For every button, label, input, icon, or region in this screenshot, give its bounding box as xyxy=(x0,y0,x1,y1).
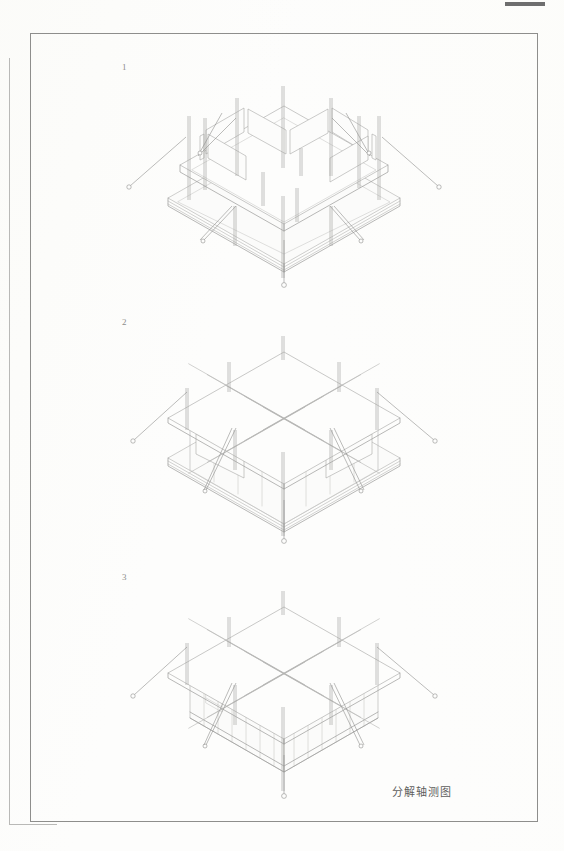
sheet-title: 分解轴测图 xyxy=(392,783,452,799)
drawing-sheet: 1 2 3 .ln { stroke:#9a9a98; stroke-width… xyxy=(0,0,564,851)
figure-3-axonometric xyxy=(131,591,437,798)
figure-1-axonometric xyxy=(127,86,441,287)
axonometric-drawings: .ln { stroke:#9a9a98; stroke-width:0.7; … xyxy=(0,0,564,851)
figure-2-axonometric xyxy=(131,336,437,543)
